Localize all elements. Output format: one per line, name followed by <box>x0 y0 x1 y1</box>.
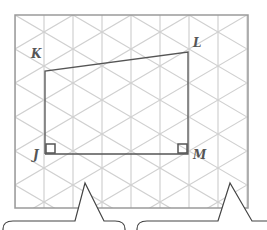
label-l: L <box>192 36 201 50</box>
label-j: J <box>31 148 40 162</box>
quadrilateral-jklm <box>45 52 188 154</box>
isometric-grid-diagram: K L J M <box>0 0 267 230</box>
callout-bubbles <box>3 183 267 230</box>
label-m: M <box>192 148 207 162</box>
triangular-grid <box>15 0 248 230</box>
label-k: K <box>30 47 42 61</box>
right-angle-marker-j <box>46 144 55 153</box>
side-jk-kl-lm-mj <box>45 52 188 154</box>
